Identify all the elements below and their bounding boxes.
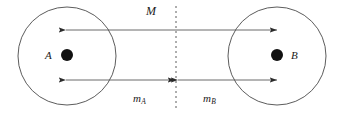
- physics-diagram-figure: A B M mA mB: [0, 0, 343, 117]
- measurement-arrows: [66, 30, 277, 80]
- center-of-mass-dots: [61, 49, 283, 61]
- label-measure-m: M: [146, 5, 156, 17]
- label-measure-ma: mA: [133, 93, 146, 106]
- center-dot-body-b: [271, 49, 283, 61]
- label-measure-mb: mB: [203, 93, 216, 106]
- label-measure-ma-subscript: A: [141, 97, 146, 106]
- label-body-a: A: [45, 50, 52, 61]
- label-measure-mb-base: m: [203, 92, 211, 104]
- label-measure-mb-subscript: B: [211, 97, 216, 106]
- center-dot-body-a: [61, 49, 73, 61]
- label-measure-ma-base: m: [133, 92, 141, 104]
- label-body-b: B: [291, 50, 298, 61]
